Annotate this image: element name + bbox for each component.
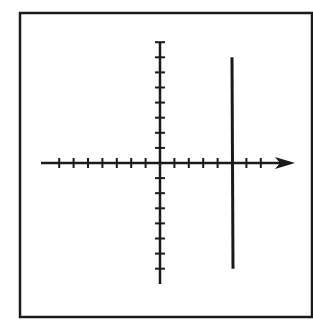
coordinate-plane-figure [0,0,313,327]
vertical-line-x-equals-5 [232,57,233,268]
figure-frame [20,13,312,317]
